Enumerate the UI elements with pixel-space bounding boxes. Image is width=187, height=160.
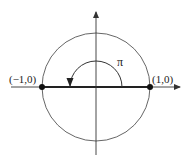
unit-circle-diagram: (−1,0) (1,0) π (0, 0, 187, 160)
arc-arrowhead-icon (67, 78, 74, 87)
angle-label: π (117, 55, 123, 69)
left-point (39, 84, 45, 90)
left-point-label: (−1,0) (9, 73, 37, 86)
right-point-label: (1,0) (152, 73, 173, 86)
